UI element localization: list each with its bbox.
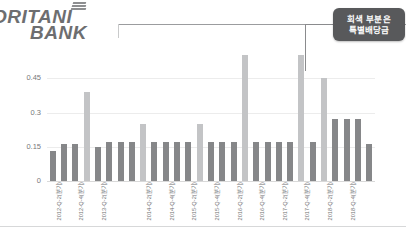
bar[interactable] (140, 124, 146, 181)
bar[interactable] (265, 142, 271, 181)
bar[interactable] (321, 78, 327, 181)
bar[interactable] (208, 142, 214, 181)
x-axis-tick-label: 2013-Q-2(분기) (100, 182, 108, 221)
y-axis-tick-label: 0.3 (7, 109, 41, 117)
callout-line-1: 회색 부분은 (347, 14, 391, 25)
bar[interactable] (310, 142, 316, 181)
bar[interactable] (332, 119, 338, 181)
bar[interactable] (242, 55, 248, 181)
bar[interactable] (151, 142, 157, 181)
special-dividend-callout: 회색 부분은 특별배당금 (333, 8, 405, 41)
bar[interactable] (276, 142, 282, 181)
bar[interactable] (253, 142, 259, 181)
y-axis-tick-label: 0.45 (7, 74, 41, 82)
oritani-bank-logo: ORITANI BANK (0, 4, 132, 46)
bar[interactable] (129, 142, 135, 181)
x-axis-tick-label: 2017-Q-4(분기) (303, 182, 311, 221)
x-axis-tick-label: 2018-Q-2(분기) (326, 182, 334, 221)
stripes-mark-icon (70, 2, 86, 16)
x-axis-tick-label: 2017-Q-2(분기) (281, 182, 289, 221)
bar-series (47, 44, 375, 181)
x-axis-tick-label: 2015-Q-4(분기) (213, 182, 221, 221)
bar[interactable] (298, 55, 304, 181)
x-axis-tick-label: 2014-Q-4(분기) (168, 182, 176, 221)
bar[interactable] (231, 142, 237, 181)
callout-leader-horizontal (305, 24, 335, 25)
x-axis-tick-label: 2012-Q-4(분기) (77, 182, 85, 221)
bar[interactable] (174, 142, 180, 181)
bar[interactable] (219, 142, 225, 181)
bar[interactable] (118, 142, 124, 181)
bar[interactable] (185, 142, 191, 181)
bar[interactable] (197, 124, 203, 181)
x-axis-tick-label: 2016-Q-4(분기) (258, 182, 266, 221)
x-axis-tick-label: 2015-Q-2(분기) (190, 182, 198, 221)
plot-area (47, 44, 375, 181)
y-axis: 00.150.30.45 (5, 44, 41, 181)
x-axis-tick-label: 2016-Q-2(분기) (236, 182, 244, 221)
bar[interactable] (344, 119, 350, 181)
bar[interactable] (287, 142, 293, 181)
chart-page: ORITANI BANK 회색 부분은 특별배당금 00.150.30.45 2… (0, 0, 406, 238)
footer-divider (0, 226, 406, 227)
y-axis-tick-label: 0.15 (7, 143, 41, 151)
bar[interactable] (72, 144, 78, 181)
bar[interactable] (366, 144, 372, 181)
bar[interactable] (61, 144, 67, 181)
header-tick (118, 24, 119, 38)
bar[interactable] (106, 142, 112, 181)
bar[interactable] (95, 147, 101, 181)
x-axis-tick-label: 2018-Q-4(분기) (349, 182, 357, 221)
bar[interactable] (163, 142, 169, 181)
callout-line-2: 특별배당금 (349, 25, 390, 36)
bar[interactable] (355, 119, 361, 181)
y-axis-tick-label: 0 (7, 177, 41, 185)
bar[interactable] (50, 151, 56, 181)
x-axis-tick-label: 2014-Q-2(분기) (145, 182, 153, 221)
x-axis-tick-label: 2012-Q-2(분기) (55, 182, 63, 221)
logo-line-2: BANK (30, 22, 87, 44)
bar[interactable] (84, 92, 90, 181)
